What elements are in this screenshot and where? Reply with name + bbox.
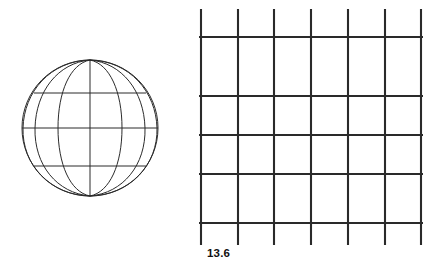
figure-root: 13.6: [0, 0, 439, 273]
wire-mesh-grid: [0, 0, 439, 273]
mesh-vertical-lines: [201, 9, 421, 245]
figure-number-label: 13.6: [207, 248, 230, 260]
